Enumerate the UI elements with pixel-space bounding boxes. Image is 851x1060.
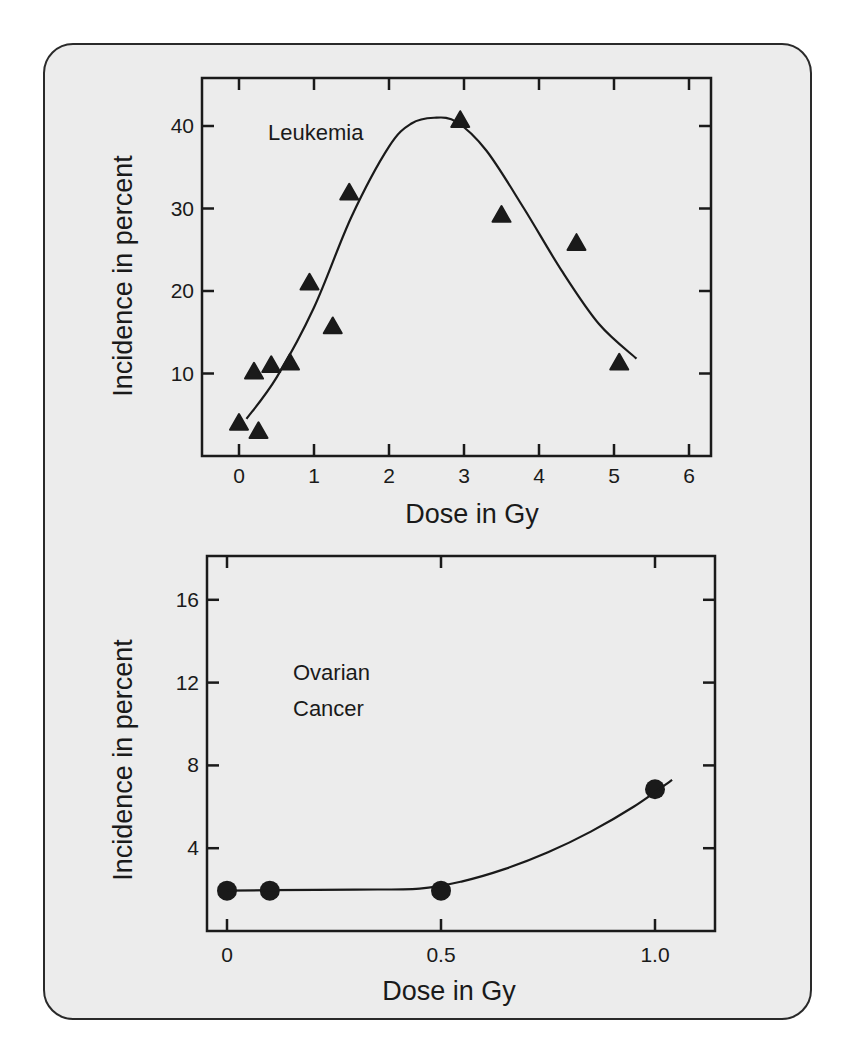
fitted-curve [227, 780, 672, 891]
series-annotation: Ovarian [293, 660, 370, 685]
x-tick-label: 0 [233, 464, 245, 487]
data-point-triangle [324, 317, 342, 333]
series-annotation: Cancer [293, 696, 364, 721]
data-point-triangle [301, 274, 319, 290]
y-axis-label: Incidence in percent [108, 639, 138, 881]
chart-leukemia: 012345610203040Dose in GyIncidence in pe… [108, 78, 711, 529]
x-tick-label: 1 [308, 464, 320, 487]
y-tick-label: 30 [171, 197, 194, 220]
data-point-triangle [610, 354, 628, 370]
y-tick-label: 20 [171, 279, 194, 302]
data-point-triangle [340, 184, 358, 200]
x-tick-label: 6 [683, 464, 695, 487]
fitted-curve [247, 117, 637, 418]
y-tick-label: 4 [187, 836, 199, 859]
data-point-triangle [245, 363, 263, 379]
y-tick-label: 12 [176, 671, 199, 694]
x-tick-label: 0.5 [426, 943, 455, 966]
plots-canvas: 012345610203040Dose in GyIncidence in pe… [0, 0, 851, 1060]
y-tick-label: 8 [187, 753, 199, 776]
y-axis-label: Incidence in percent [108, 155, 138, 397]
y-tick-label: 16 [176, 588, 199, 611]
x-tick-label: 0 [221, 943, 233, 966]
y-tick-label: 10 [171, 362, 194, 385]
plot-area-border [207, 556, 715, 931]
series-annotation: Leukemia [268, 120, 364, 145]
figure: 012345610203040Dose in GyIncidence in pe… [0, 0, 851, 1060]
x-tick-label: 2 [383, 464, 395, 487]
chart-ovarian: 00.51.0481216Dose in GyIncidence in perc… [108, 556, 715, 1006]
data-point-triangle [493, 206, 511, 222]
x-tick-label: 1.0 [640, 943, 669, 966]
x-tick-label: 3 [458, 464, 470, 487]
x-axis-label: Dose in Gy [382, 976, 516, 1006]
data-point-triangle [568, 234, 586, 250]
x-tick-label: 4 [533, 464, 545, 487]
y-tick-label: 40 [171, 114, 194, 137]
data-point-triangle [262, 356, 280, 372]
data-point-triangle [250, 422, 268, 438]
data-point-triangle [230, 414, 248, 430]
x-axis-label: Dose in Gy [405, 499, 539, 529]
x-tick-label: 5 [608, 464, 620, 487]
